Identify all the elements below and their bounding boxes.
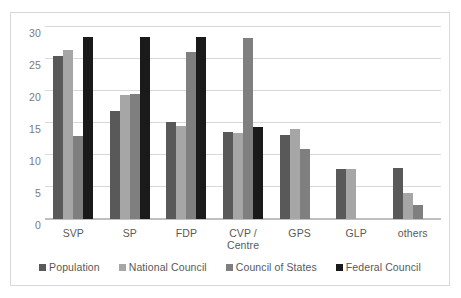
legend-item[interactable]: Council of States [226, 261, 317, 273]
bar-group [215, 27, 272, 219]
bar [186, 52, 196, 219]
bar [83, 37, 93, 219]
bar [393, 168, 403, 219]
legend-label: Council of States [236, 261, 317, 273]
bar [233, 133, 243, 219]
bar [413, 205, 423, 219]
legend-swatch-icon [119, 264, 126, 271]
bar [176, 126, 186, 219]
legend-label: National Council [129, 261, 207, 273]
y-axis-tick-labels: 051015202530 [15, 27, 41, 219]
bar-group [328, 27, 385, 219]
x-axis-label: GLP [328, 222, 385, 256]
bar-group [384, 27, 441, 219]
bar [110, 111, 120, 219]
x-axis-label: SP [102, 222, 159, 256]
legend-label: Population [49, 261, 100, 273]
bar [300, 149, 310, 219]
legend-swatch-icon [39, 264, 46, 271]
chart-legend: PopulationNational CouncilCouncil of Sta… [11, 261, 449, 273]
bar [140, 37, 150, 219]
bar [166, 122, 176, 219]
x-axis-label: CVP /Centre [215, 222, 272, 256]
x-axis-label: others [384, 222, 441, 256]
chart-plot-area [45, 27, 441, 219]
bar [223, 132, 233, 219]
x-axis-label: SVP [45, 222, 102, 256]
legend-label: Federal Council [346, 261, 421, 273]
x-axis-label-line: CVP / [215, 227, 272, 239]
x-axis-label-line: GLP [328, 227, 385, 239]
x-axis-label-line: GPS [271, 227, 328, 239]
bar [253, 127, 263, 219]
bar [130, 94, 140, 219]
bar [403, 193, 413, 219]
bar-groups [45, 27, 441, 219]
bar [53, 56, 63, 219]
bar [280, 135, 290, 219]
x-axis-label-line: SP [102, 227, 159, 239]
legend-item[interactable]: National Council [119, 261, 207, 273]
bar-group [158, 27, 215, 219]
legend-swatch-icon [336, 264, 343, 271]
bar [196, 37, 206, 219]
bar [243, 38, 253, 219]
x-axis-label: FDP [158, 222, 215, 256]
bar-group [271, 27, 328, 219]
bar [290, 129, 300, 219]
x-axis-label-line: FDP [158, 227, 215, 239]
bar [73, 136, 83, 219]
bar-group [45, 27, 102, 219]
bar [63, 50, 73, 219]
bar-group [102, 27, 159, 219]
legend-swatch-icon [226, 264, 233, 271]
bar [346, 169, 356, 219]
chart-frame: 051015202530 SVPSPFDPCVP /CentreGPSGLPot… [10, 12, 450, 286]
x-axis-label: GPS [271, 222, 328, 256]
bar [336, 169, 346, 219]
x-axis-label-line: others [384, 227, 441, 239]
legend-item[interactable]: Population [39, 261, 100, 273]
chart-plot-wrapper: 051015202530 SVPSPFDPCVP /CentreGPSGLPot… [11, 13, 449, 285]
x-axis-label-line: SVP [45, 227, 102, 239]
bar [120, 95, 130, 219]
x-axis-category-labels: SVPSPFDPCVP /CentreGPSGLPothers [45, 222, 441, 256]
x-axis-line [45, 219, 441, 220]
x-axis-label-line: Centre [215, 239, 272, 251]
legend-item[interactable]: Federal Council [336, 261, 421, 273]
